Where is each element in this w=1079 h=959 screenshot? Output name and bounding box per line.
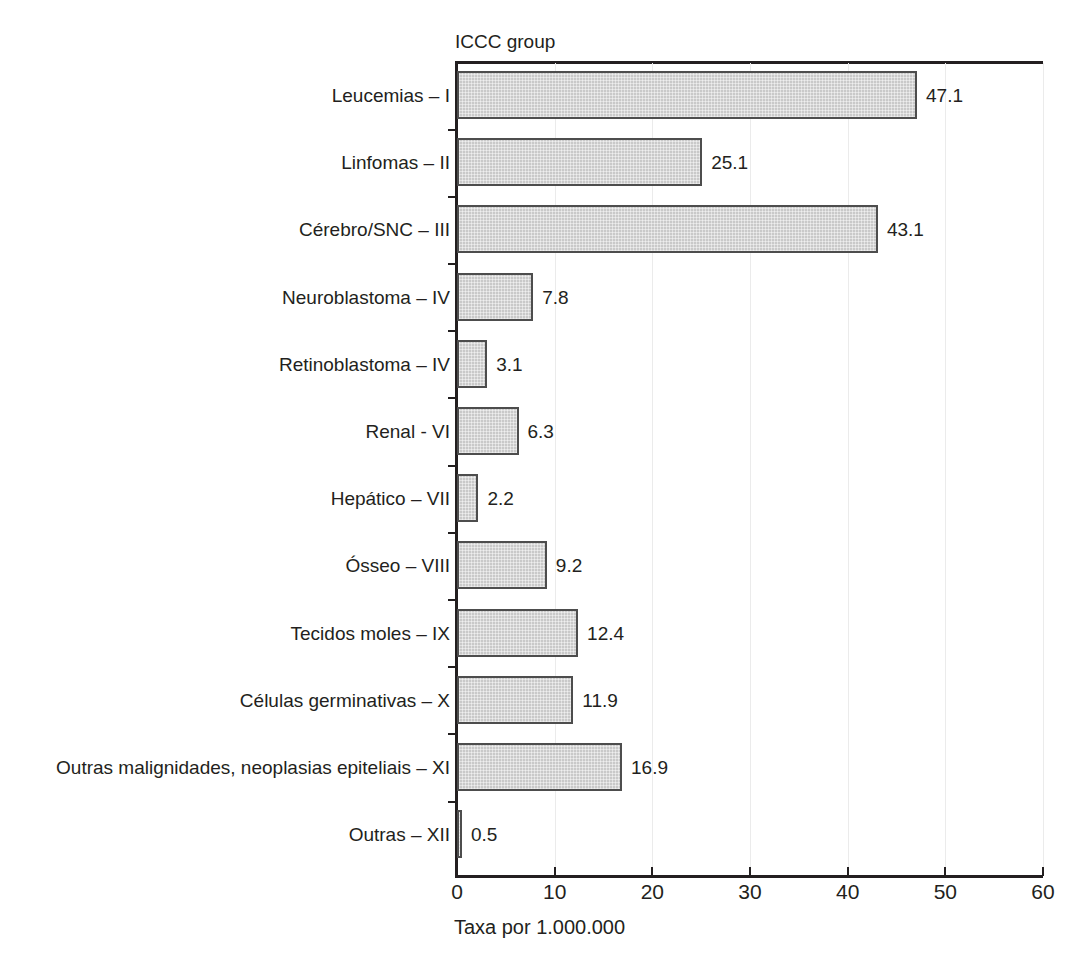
x-axis-tick-label: 50: [934, 881, 957, 903]
y-axis-title: ICCC group: [455, 31, 555, 53]
category-label: Cérebro/SNC – III: [0, 220, 450, 239]
bar: [457, 474, 478, 522]
x-axis-tick: [554, 867, 556, 876]
x-axis-tick: [944, 867, 946, 876]
category-label: Tecidos moles – IX: [0, 624, 450, 643]
category-label: Células germinativas – X: [0, 691, 450, 710]
bar-value-label: 6.3: [528, 422, 554, 441]
bar-value-label: 0.5: [471, 825, 497, 844]
x-axis-tick-label: 20: [641, 881, 664, 903]
bar: [457, 743, 622, 791]
bar: [457, 71, 917, 119]
gridline: [848, 63, 849, 875]
bar-value-label: 3.1: [496, 355, 522, 374]
x-axis-tick-label: 10: [543, 881, 566, 903]
y-axis-tick: [448, 263, 456, 265]
y-axis-tick: [448, 801, 456, 803]
category-label: Leucemias – I: [0, 86, 450, 105]
bar: [457, 407, 519, 455]
category-label: Neuroblastoma – IV: [0, 288, 450, 307]
bar: [457, 541, 547, 589]
plot-area: [457, 63, 1043, 875]
x-axis-tick: [749, 867, 751, 876]
y-axis-tick: [448, 733, 456, 735]
category-label: Outras malignidades, neoplasias epitelia…: [0, 758, 450, 777]
bar: [457, 676, 573, 724]
y-axis-tick: [448, 196, 456, 198]
bar-value-label: 25.1: [711, 153, 748, 172]
y-axis-tick: [448, 330, 456, 332]
bar-value-label: 2.2: [487, 489, 513, 508]
bar-value-label: 47.1: [926, 86, 963, 105]
y-axis-tick: [448, 666, 456, 668]
category-label: Linfomas – II: [0, 153, 450, 172]
category-label: Outras – XII: [0, 825, 450, 844]
y-axis-tick: [448, 129, 456, 131]
bar-value-label: 43.1: [887, 220, 924, 239]
bar-value-label: 16.9: [631, 758, 668, 777]
category-label: Ósseo – VIII: [0, 556, 450, 575]
category-label: Retinoblastoma – IV: [0, 355, 450, 374]
bar: [457, 273, 533, 321]
bar-value-label: 9.2: [556, 556, 582, 575]
gridline: [1043, 63, 1044, 875]
x-axis-tick: [651, 867, 653, 876]
bar-value-label: 7.8: [542, 288, 568, 307]
x-axis-tick: [456, 867, 458, 876]
x-axis-tick-label: 60: [1031, 881, 1054, 903]
bar: [457, 340, 487, 388]
x-axis-tick-label: 40: [836, 881, 859, 903]
bar-chart: ICCC group 47.1Leucemias – I25.1Linfomas…: [0, 0, 1079, 959]
bar: [457, 810, 462, 858]
y-axis-tick: [448, 599, 456, 601]
y-axis-tick: [448, 465, 456, 467]
x-axis-tick: [847, 867, 849, 876]
y-axis-tick: [448, 532, 456, 534]
gridline: [945, 63, 946, 875]
gridline: [750, 63, 751, 875]
x-axis-title: Taxa por 1.000.000: [0, 916, 1079, 938]
x-axis-tick-label: 0: [451, 881, 463, 903]
bar: [457, 609, 578, 657]
bar: [457, 205, 878, 253]
y-axis-tick: [448, 397, 456, 399]
bar-value-label: 11.9: [582, 691, 618, 710]
category-label: Hepático – VII: [0, 489, 450, 508]
bar-value-label: 12.4: [587, 624, 624, 643]
category-label: Renal - VI: [0, 422, 450, 441]
bar: [457, 138, 702, 186]
x-axis-tick-label: 30: [738, 881, 761, 903]
x-axis-tick: [1042, 867, 1044, 876]
